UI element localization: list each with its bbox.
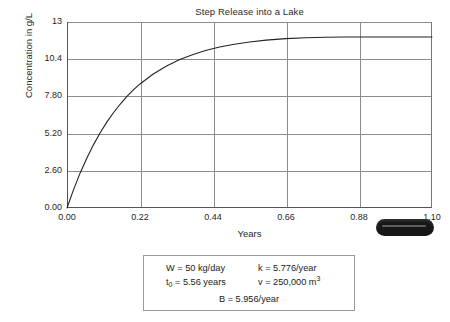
x-tick-label: 0.66 <box>256 212 316 222</box>
y-tick-label: 13 <box>10 16 62 26</box>
parameter-k: k = 5.776/year <box>258 263 316 273</box>
chart-title: Step Release into a Lake <box>67 6 432 17</box>
x-tick-label: 0.22 <box>110 212 170 222</box>
curve-path <box>67 37 432 208</box>
x-tick-label: 0.00 <box>37 212 97 222</box>
parameter-t0-suffix: = 5.56 years <box>172 277 225 287</box>
parameter-w: W = 50 kg/day <box>166 263 225 273</box>
y-tick-label: 10.4 <box>10 53 62 63</box>
concentration-curve <box>67 22 432 208</box>
parameter-row-3: B = 5.956/year <box>144 294 354 304</box>
x-tick-label: 0.44 <box>183 212 243 222</box>
figure-step-release: Step Release into a Lake Concentration i… <box>0 0 450 322</box>
parameter-t0-subscript: 0 <box>169 281 173 288</box>
y-tick-label: 5.20 <box>10 128 62 138</box>
y-tick-label: 7.80 <box>10 90 62 100</box>
scan-smudge-artifact <box>376 219 434 236</box>
parameter-v: v = 250,000 m3 <box>258 277 320 287</box>
parameter-t0: t0 = 5.56 years <box>166 277 226 287</box>
parameter-v-superscript: 3 <box>316 275 320 282</box>
parameter-v-prefix: v = 250,000 m <box>258 277 316 287</box>
parameter-box: W = 50 kg/day k = 5.776/year t0 = 5.56 y… <box>143 255 355 311</box>
parameter-b: B = 5.956/year <box>219 294 279 304</box>
y-tick-label: 0.00 <box>10 202 62 212</box>
y-tick-label: 2.60 <box>10 165 62 175</box>
